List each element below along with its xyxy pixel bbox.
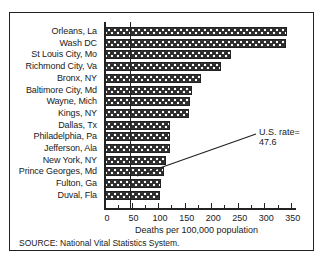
annotation-leader-line xyxy=(0,0,323,260)
